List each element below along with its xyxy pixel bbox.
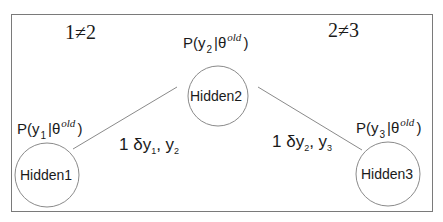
node-hidden3-prob: P(y3|θold) [356,117,421,140]
prob-sup: old [61,117,75,129]
constraint-right: 2≠3 [328,20,359,40]
prob-sup: old [400,116,414,128]
prob-mid: |θ [214,34,226,51]
prob-prefix: P(y [183,34,206,51]
prob-mid: |θ [48,120,60,137]
edge-label-prefix: 1 δy [119,135,151,154]
prob-sub: 1 [41,130,47,141]
prob-prefix: P(y [356,119,379,136]
edge-label-mid: , y [156,135,174,154]
prob-mid: |θ [387,119,399,136]
prob-sup: old [227,31,241,43]
prob-suffix: ) [77,120,82,137]
node-hidden2-prob: P(y2|θold) [183,32,248,55]
edge-label-sub2: 3 [327,143,332,153]
node-hidden3-label: Hidden3 [361,167,413,181]
edge-label-2-3: 1 δy2, y3 [272,133,332,153]
node-hidden1-label: Hidden1 [20,168,72,182]
node-hidden2-label: Hidden2 [190,89,242,103]
edge-label-sub2: 2 [174,146,179,156]
edge-label-prefix: 1 δy [272,132,304,151]
prob-sub: 3 [380,129,386,140]
prob-suffix: ) [416,119,421,136]
prob-suffix: ) [243,34,248,51]
prob-prefix: P(y [17,120,40,137]
edge-label-1-2: 1 δy1, y2 [119,136,179,156]
edge-label-mid: , y [309,132,327,151]
node-hidden1-prob: P(y1|θold) [17,118,82,141]
constraint-left: 1≠2 [65,22,96,42]
prob-sub: 2 [207,44,213,55]
